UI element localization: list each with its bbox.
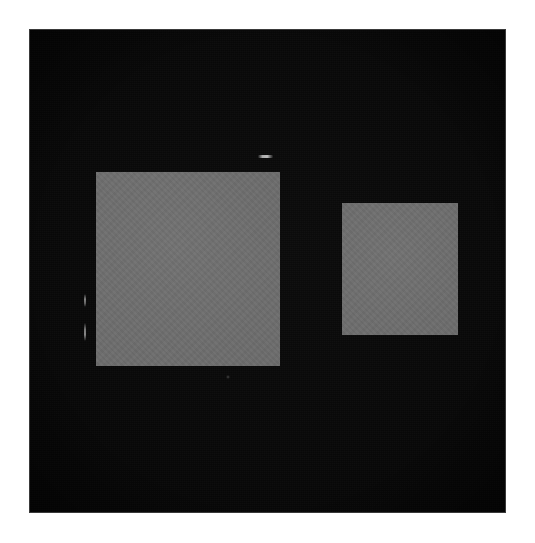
gray-square-small: [342, 203, 458, 335]
gray-square-large: [96, 172, 280, 366]
image-canvas: Two flat gray squares of unequal size ph…: [0, 0, 535, 543]
